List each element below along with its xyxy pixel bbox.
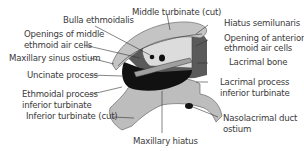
label-uncinate-process: Uncinate process (27, 70, 98, 80)
middle-ethmoid-opening-2 (159, 55, 165, 62)
label-lacrimal-process-2: inferior turbinate (220, 88, 290, 98)
label-middle-turbinate: Middle turbinate (cut) (132, 7, 221, 17)
label-maxillary-hiatus: Maxillary hiatus (133, 136, 198, 146)
label-lacrimal-bone: Lacrimal bone (229, 57, 287, 67)
label-maxillary-sinus-ostium: Maxillary sinus ostium (9, 53, 100, 63)
label-opening-anterior-ethmoid-1: Opening of anterior (224, 33, 304, 43)
label-inferior-turbinate: Inferior turbinate (cut) (26, 111, 117, 121)
label-bulla-ethmoidalis: Bulla ethmoidalis (63, 15, 134, 25)
label-nasolacrimal-duct-1: Nasolacrimal duct (223, 113, 297, 123)
label-lacrimal-process-1: Lacrimal process (220, 77, 289, 87)
label-openings-middle-ethmoid-1: Openings of middle (24, 29, 104, 39)
middle-ethmoid-opening-1 (150, 55, 155, 60)
label-ethmoidal-process-2: inferior turbinate (22, 100, 92, 110)
label-ethmoidal-process-1: Ethmoidal process (22, 89, 98, 99)
nasolacrimal-ostium-shape (185, 103, 193, 109)
label-hiatus-semilunaris: Hiatus semilunaris (224, 18, 300, 28)
label-nasolacrimal-duct-2: ostium (223, 124, 251, 134)
label-openings-middle-ethmoid-2: ethmoid air cells (24, 40, 92, 50)
label-opening-anterior-ethmoid-2: ethmoid air cells (224, 43, 292, 53)
